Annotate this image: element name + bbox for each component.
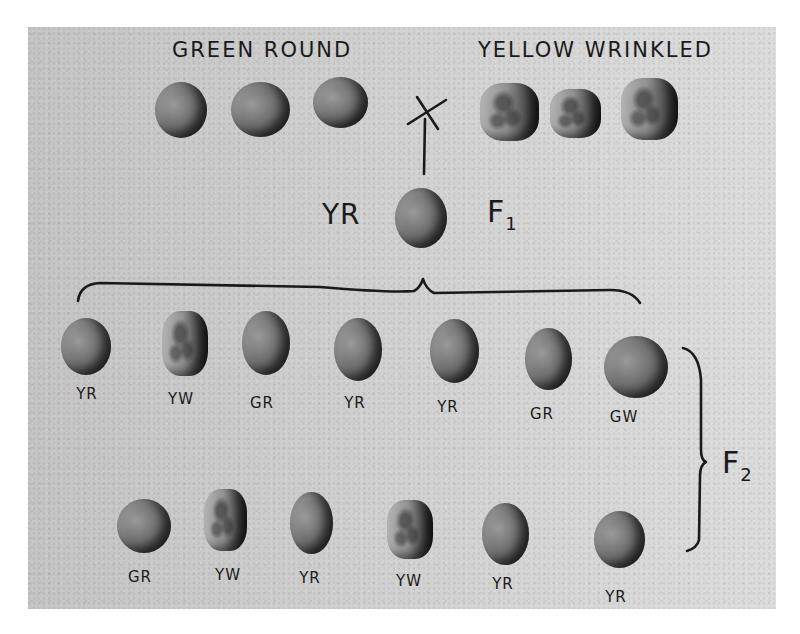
f2-pea-label: GR [250,394,274,412]
f1-letter: F [487,194,505,229]
f2-pea-label: YR [299,569,321,587]
f1-phenotype-label: YR [322,198,361,231]
yellow-wrinkled-pea [621,78,678,140]
green-round-pea [313,77,368,128]
f2-pea-gr [525,328,572,390]
f2-pea-yr [290,492,333,554]
f2-pea-label: YW [215,566,241,584]
f2-pea-yr [61,318,111,375]
f2-pea-gw [604,336,668,398]
f2-pea-yr [334,318,382,381]
green-round-pea [231,82,290,137]
f2-pea-yw [387,500,433,559]
f2-pea-yr [482,503,529,565]
f2-pea-yw [204,489,247,551]
label-green-round: GREEN ROUND [172,38,352,62]
f2-pea-yr [430,319,479,383]
f1-subscript: 1 [505,213,517,234]
f2-pea-label: YR [605,588,627,606]
f2-pea-label: YR [76,385,98,403]
f2-pea-label: YW [168,390,194,408]
f2-generation-label: F2 [722,445,753,485]
label-yellow-wrinkled: YELLOW WRINKLED [478,38,713,62]
f1-yellow-round-pea [395,188,447,248]
f2-pea-label: YR [492,575,514,593]
f2-pea-yw [162,311,208,376]
f2-pea-label: GR [530,405,554,423]
f2-pea-label: GR [128,568,152,586]
f2-pea-gr [242,311,290,375]
f2-pea-label: YW [396,572,422,590]
f2-subscript: 2 [740,464,752,485]
f2-pea-label: YR [344,394,366,412]
yellow-wrinkled-pea [480,83,539,141]
f2-pea-label: YR [437,398,459,416]
green-round-pea [155,82,207,138]
f1-generation-label: F1 [487,194,518,234]
f2-pea-label: GW [610,408,638,426]
yellow-wrinkled-pea [550,89,601,138]
f2-letter: F [722,445,740,480]
f2-pea-yr [594,511,645,568]
f2-pea-gr [117,499,171,553]
